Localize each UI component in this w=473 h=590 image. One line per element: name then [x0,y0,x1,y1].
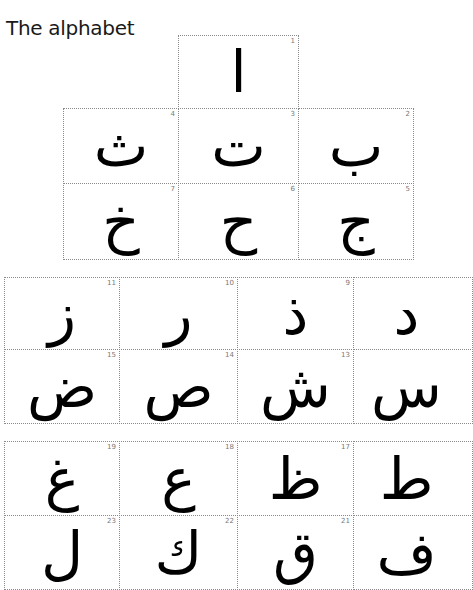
letter-card-22: 22 ك [119,515,238,590]
letter-glyph: ظ [238,442,353,515]
letter-glyph: ب [299,109,413,183]
letter-glyph: ض [5,350,119,423]
letter-glyph: ع [120,442,237,515]
letter-card-17: 17 ظ [237,441,354,516]
letter-glyph: ح [179,184,298,259]
letter-glyph: ص [120,350,237,423]
page-title: The alphabet [6,16,134,40]
letter-glyph: ك [120,516,237,589]
letter-glyph: د [354,278,459,349]
letter-glyph: ش [238,350,353,423]
letter-card-8: د [353,277,473,350]
letter-card-4: 4 ث [63,108,179,184]
letter-glyph: ق [238,516,353,589]
letter-card-5: 5 ج [298,183,414,260]
letter-card-9: 9 ذ [237,277,354,350]
letter-card-16: ط [353,441,473,516]
letter-card-12: س [353,349,473,424]
letter-glyph: ا [179,36,298,108]
letter-card-11: 11 ز [4,277,120,350]
letter-glyph: ز [5,278,119,349]
letter-card-15: 15 ض [4,349,120,424]
letter-card-20: ف [353,515,473,590]
letter-card-10: 10 ر [119,277,238,350]
letter-card-2: 2 ب [298,108,414,184]
letter-glyph: ل [5,516,119,589]
letter-card-14: 14 ص [119,349,238,424]
letter-glyph: ج [299,184,413,259]
letter-card-3: 3 ت [178,108,299,184]
letter-card-23: 23 ل [4,515,120,590]
letter-glyph: ف [354,516,459,589]
letter-card-21: 21 ق [237,515,354,590]
letter-card-19: 19 غ [4,441,120,516]
letter-glyph: ر [120,278,237,349]
letter-card-13: 13 ش [237,349,354,424]
letter-glyph: ث [64,109,178,183]
letter-glyph: س [354,350,459,423]
letter-glyph: خ [64,184,178,259]
letter-glyph: ط [354,442,459,515]
letter-glyph: ت [179,109,298,183]
letter-card-7: 7 خ [63,183,179,260]
letter-card-1: 1 ا [178,35,299,109]
letter-glyph: ذ [238,278,353,349]
letter-card-18: 18 ع [119,441,238,516]
letter-glyph: غ [5,442,119,515]
letter-card-6: 6 ح [178,183,299,260]
